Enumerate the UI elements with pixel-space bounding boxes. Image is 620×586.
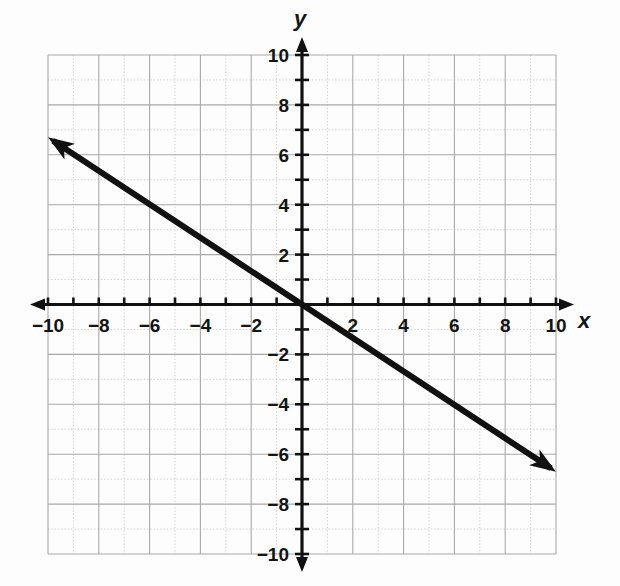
y-tick-label: −10: [257, 544, 289, 565]
x-tick-label: −2: [240, 315, 262, 336]
y-tick-label: −8: [267, 494, 289, 515]
y-tick-label: 2: [278, 245, 289, 266]
graph-canvas: −10−8−6−4−2246810 108642−2−4−6−8−10 x y: [0, 0, 620, 586]
coordinate-plane-figure: −10−8−6−4−2246810 108642−2−4−6−8−10 x y: [0, 0, 620, 586]
x-axis-label: x: [577, 308, 591, 333]
x-tick-label: −4: [190, 315, 212, 336]
x-tick-label: −6: [139, 315, 161, 336]
y-tick-label: 6: [278, 145, 289, 166]
y-tick-label: −6: [267, 444, 289, 465]
y-tick-label: 4: [278, 195, 289, 216]
y-tick-label: −2: [267, 344, 289, 365]
y-tick-label: 8: [278, 95, 289, 116]
y-tick-label: 10: [268, 45, 289, 66]
x-tick-label: −8: [88, 315, 110, 336]
x-tick-label: 4: [398, 315, 409, 336]
plot-background: [0, 0, 620, 586]
x-tick-label: 8: [500, 315, 511, 336]
x-tick-label: 10: [545, 315, 566, 336]
x-tick-label: −10: [32, 315, 64, 336]
x-tick-label: 6: [449, 315, 460, 336]
y-axis-label: y: [293, 6, 308, 31]
y-tick-label: −4: [267, 394, 289, 415]
